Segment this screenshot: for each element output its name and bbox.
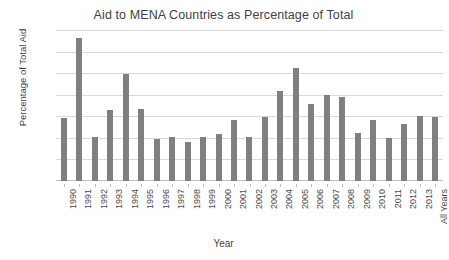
x-tick-mark	[188, 184, 189, 187]
x-tick-mark	[141, 184, 142, 187]
bar-slot[interactable]	[56, 30, 71, 181]
bar[interactable]	[123, 74, 129, 181]
x-tick-mark	[79, 184, 80, 187]
bar-slot[interactable]	[381, 30, 396, 181]
bar[interactable]	[246, 137, 252, 181]
x-tick-label: 2011	[393, 189, 403, 208]
x-axis-title: Year	[0, 238, 447, 249]
bar[interactable]	[401, 124, 407, 181]
x-tick-mark	[280, 184, 281, 187]
bar-slot[interactable]	[273, 30, 288, 181]
bar-slot[interactable]	[133, 30, 148, 181]
bar[interactable]	[200, 137, 206, 181]
x-tick-mark	[327, 184, 328, 187]
x-tick-mark	[296, 184, 297, 187]
x-tick-label: 2012	[408, 189, 418, 209]
x-tick-label: 2006	[315, 189, 325, 209]
x-tick-label: 1990	[68, 189, 78, 209]
x-tick-mark	[203, 184, 204, 187]
x-tick-label: 2008	[346, 189, 356, 209]
bar[interactable]	[262, 117, 268, 181]
x-tick-label: 1991	[83, 189, 93, 209]
x-tick-mark	[389, 184, 390, 187]
x-tick-label: 1994	[130, 189, 140, 209]
x-tick-label: 1992	[99, 189, 109, 209]
bar-slot[interactable]	[242, 30, 257, 181]
x-tick-label: 2013	[424, 189, 434, 209]
x-tick-mark	[157, 184, 158, 187]
bar[interactable]	[216, 134, 222, 181]
bar[interactable]	[138, 109, 144, 181]
bar[interactable]	[169, 137, 175, 181]
bar[interactable]	[386, 138, 392, 181]
x-tick-label: 1995	[145, 189, 155, 209]
bar-slot[interactable]	[257, 30, 272, 181]
x-tick-mark	[358, 184, 359, 187]
x-tick-mark	[342, 184, 343, 187]
bar[interactable]	[154, 139, 160, 181]
bar-slot[interactable]	[366, 30, 381, 181]
bar-slot[interactable]	[164, 30, 179, 181]
plot-area	[56, 30, 443, 181]
x-tick-label: 1993	[114, 189, 124, 209]
x-tick-label: 1999	[207, 189, 217, 209]
bar-slot[interactable]	[335, 30, 350, 181]
x-tick-label: 2000	[223, 189, 233, 209]
bar-slot[interactable]	[226, 30, 241, 181]
bar-slot[interactable]	[304, 30, 319, 181]
bar[interactable]	[324, 95, 330, 181]
bar-slot[interactable]	[428, 30, 443, 181]
x-tick-mark	[265, 184, 266, 187]
x-tick-mark	[435, 184, 436, 187]
x-tick-mark	[404, 184, 405, 187]
bar-slot[interactable]	[211, 30, 226, 181]
bar-slot[interactable]	[149, 30, 164, 181]
bar[interactable]	[370, 120, 376, 181]
bar[interactable]	[277, 91, 283, 181]
bar-slot[interactable]	[71, 30, 86, 181]
bar-slot[interactable]	[412, 30, 427, 181]
x-tick-label: 2005	[300, 189, 310, 209]
bar[interactable]	[432, 117, 438, 181]
bar[interactable]	[231, 120, 237, 181]
x-tick-label: 2010	[377, 189, 387, 209]
bar[interactable]	[417, 116, 423, 181]
x-tick-mark	[373, 184, 374, 187]
x-tick-mark	[219, 184, 220, 187]
x-tick-label: 1998	[192, 189, 202, 209]
x-tick-mark	[110, 184, 111, 187]
x-tick-mark	[250, 184, 251, 187]
bar[interactable]	[339, 97, 345, 181]
bar[interactable]	[107, 110, 113, 181]
x-tick-mark	[64, 184, 65, 187]
bar-slot[interactable]	[118, 30, 133, 181]
bar-slot[interactable]	[195, 30, 210, 181]
bar-slot[interactable]	[350, 30, 365, 181]
chart-title: Aid to MENA Countries as Percentage of T…	[0, 8, 447, 22]
x-tick-label: 2001	[238, 189, 248, 209]
bar-slot[interactable]	[397, 30, 412, 181]
bar[interactable]	[61, 118, 67, 181]
bar[interactable]	[185, 142, 191, 181]
x-tick-label: 1997	[176, 189, 186, 209]
bar[interactable]	[355, 133, 361, 181]
x-tick-label: All Years	[439, 189, 449, 224]
x-tick-label: 1996	[161, 189, 171, 209]
x-tick-label: 2007	[331, 189, 341, 209]
bar-slot[interactable]	[102, 30, 117, 181]
x-tick-label: 2002	[254, 189, 264, 209]
x-tick-mark	[95, 184, 96, 187]
bar[interactable]	[76, 38, 82, 181]
x-tick-label: 2004	[284, 189, 294, 209]
bar[interactable]	[308, 104, 314, 181]
bar[interactable]	[293, 68, 299, 181]
x-tick-mark	[311, 184, 312, 187]
bar-slot[interactable]	[180, 30, 195, 181]
bar-slot[interactable]	[319, 30, 334, 181]
bar-slot[interactable]	[288, 30, 303, 181]
bar[interactable]	[92, 137, 98, 181]
x-tick-mark	[234, 184, 235, 187]
x-axis-tick-labels: 1990199119921993199419951996199719981999…	[56, 184, 443, 234]
bar-slot[interactable]	[87, 30, 102, 181]
x-tick-label: 2009	[362, 189, 372, 209]
